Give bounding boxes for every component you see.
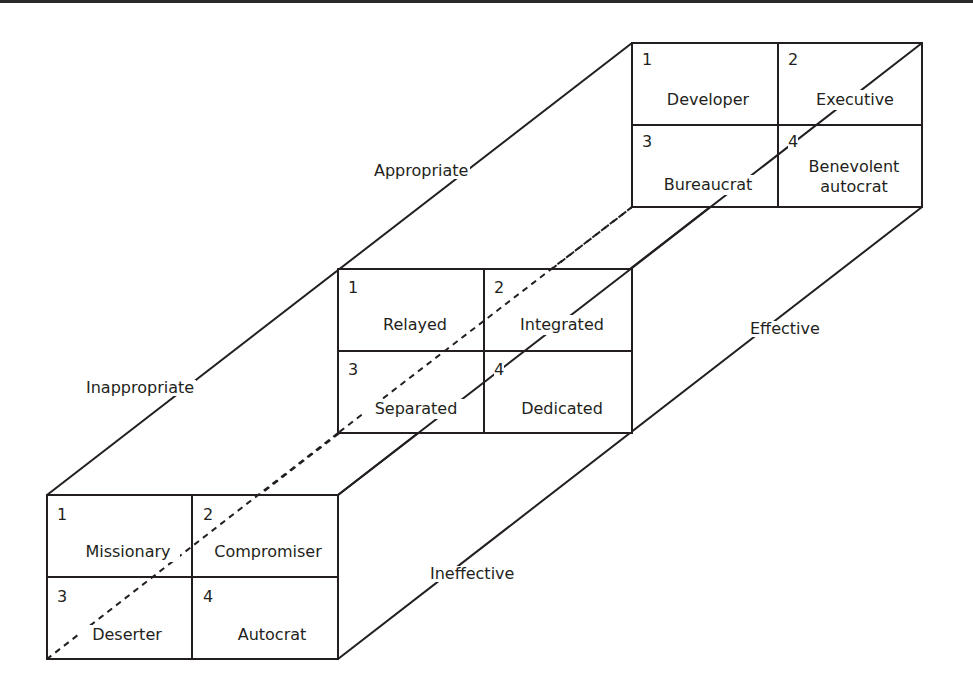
label-appropriate: Appropriate — [372, 163, 470, 179]
cell-number: 3 — [642, 134, 652, 150]
cell-label-compromiser: Compromiser — [206, 542, 330, 562]
cell-number: 4 — [494, 362, 504, 378]
cell-label-dedicated: Dedicated — [510, 399, 614, 419]
cell-number: 1 — [642, 52, 652, 68]
label-line: Benevolent — [806, 157, 902, 177]
cell-label-benevolent-autocrat: Benevolent autocrat — [804, 157, 904, 197]
cell-label-developer: Developer — [656, 90, 760, 110]
cell-number: 4 — [203, 589, 213, 605]
cell-number: 1 — [57, 507, 67, 523]
cell-number: 3 — [57, 589, 67, 605]
cell-label-separated: Separated — [364, 399, 468, 419]
cell-number: 2 — [203, 507, 213, 523]
label-inappropriate: Inappropriate — [84, 380, 196, 396]
cell-number: 2 — [788, 52, 798, 68]
cell-number: 3 — [348, 362, 358, 378]
cell-label-deserter: Deserter — [80, 625, 174, 645]
cell-label-relayed: Relayed — [368, 315, 462, 335]
cell-label-missionary: Missionary — [76, 542, 180, 562]
cell-label-bureaucrat: Bureaucrat — [656, 175, 760, 195]
cell-label-integrated: Integrated — [510, 315, 614, 335]
cell-label-executive: Executive — [808, 90, 902, 110]
label-effective: Effective — [748, 321, 822, 337]
cell-number: 2 — [494, 280, 504, 296]
cell-number: 1 — [348, 280, 358, 296]
cell-label-autocrat: Autocrat — [220, 625, 324, 645]
label-line: autocrat — [806, 177, 902, 197]
cell-number: 4 — [788, 134, 798, 150]
label-ineffective: Ineffective — [428, 566, 516, 582]
